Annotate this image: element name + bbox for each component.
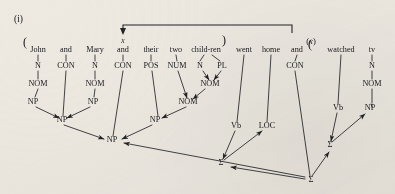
category-node: N: [35, 61, 41, 70]
sigma-row: Σ Σ Σ: [218, 139, 332, 184]
word: John: [30, 45, 45, 54]
predicate-row: Vb LOC Vb NP: [231, 103, 376, 130]
np-root-from-sigma-edge: [124, 143, 305, 177]
x-variable-label: x: [120, 36, 125, 45]
open-paren-left: (: [23, 35, 27, 49]
scope-bracket: [123, 25, 292, 33]
word: two: [170, 45, 182, 54]
nom-row: NOM NOM NOM NOM: [28, 79, 382, 88]
np-node: NP: [88, 97, 99, 106]
word: Mary: [86, 45, 105, 54]
np-node: NP: [365, 103, 376, 112]
nom-node: NOM: [178, 97, 198, 106]
word: and: [291, 45, 303, 54]
np-upper-row: NP NP NOM: [28, 97, 199, 106]
word-row: John and Mary and their two child-ren we…: [30, 45, 376, 54]
category-node: CON: [286, 61, 303, 70]
category-node: N: [197, 61, 203, 70]
verb-node: Vb: [333, 103, 343, 112]
word: home: [262, 45, 281, 54]
verb-node: Vb: [231, 121, 241, 130]
category-node: NUM: [167, 61, 187, 70]
word: and: [60, 45, 72, 54]
locative-node: LOC: [259, 121, 276, 130]
category-to-nom-edges: [38, 71, 372, 79]
category-node: POS: [143, 61, 158, 70]
np-node: NP: [57, 115, 68, 124]
nom-node: NOM: [28, 79, 48, 88]
bottom-sigma-edges: [231, 71, 329, 179]
word: and: [117, 45, 129, 54]
category-node: CON: [57, 61, 74, 70]
sigma-node: Σ: [308, 174, 313, 184]
nom-node: NOM: [362, 79, 382, 88]
np-mid-row: NP NP: [57, 115, 161, 124]
np-root-node: NP: [107, 135, 118, 144]
nom-node: NOM: [200, 79, 220, 88]
category-node: N: [369, 61, 375, 70]
x-variable-parenthesized: (x): [306, 36, 316, 46]
word-to-category-edges: [38, 55, 372, 61]
syntax-tree-diagram: (i) x ( ) ( (x) John and Mary and their …: [0, 0, 395, 194]
word: watched: [327, 45, 354, 54]
nom-node: NOM: [85, 79, 105, 88]
word: tv: [369, 45, 376, 54]
category-row: N CON N CON POS NUM N PL CON N: [35, 61, 375, 70]
word: went: [236, 45, 253, 54]
word: child-ren: [191, 45, 221, 54]
sigma-node: Σ: [327, 139, 332, 149]
np-node: NP: [150, 115, 161, 124]
figure-canvas: (i) x ( ) ( (x) John and Mary and their …: [0, 0, 395, 194]
left-sigma-edges: [223, 131, 262, 160]
np-upper-to-mid-edges: [36, 71, 186, 118]
scope-bracket-arrowhead: [120, 28, 126, 35]
close-paren-mid: ): [222, 33, 226, 47]
right-sigma-edges: [331, 113, 365, 142]
np-mid-to-root-edges: [64, 71, 152, 139]
category-node: N: [92, 61, 98, 70]
verb-loc-edges: [237, 55, 372, 122]
word: their: [143, 45, 158, 54]
x-paren-close: ): [313, 36, 316, 46]
figure-number: (i): [14, 14, 23, 25]
np-node: NP: [28, 97, 39, 106]
category-node: CON: [114, 61, 131, 70]
sigma-node: Σ: [218, 157, 223, 167]
category-node: PL: [217, 61, 227, 70]
